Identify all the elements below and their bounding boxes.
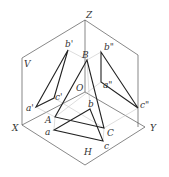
label-y: Y	[150, 123, 157, 133]
label-x: X	[11, 123, 19, 133]
projection-diagram: Z V X Y H O B A C a b c a' b' c' a" b" c…	[0, 0, 169, 177]
projection-box	[22, 20, 145, 165]
label-v: V	[24, 59, 32, 69]
label-c-dprime: c"	[140, 100, 149, 110]
v-projection-triangle	[36, 50, 68, 107]
projector-lines	[36, 50, 138, 141]
label-A: A	[44, 115, 52, 125]
label-o: O	[76, 83, 84, 93]
label-a-dprime: a"	[103, 80, 113, 90]
label-b: b	[88, 99, 94, 109]
label-h: H	[83, 147, 92, 157]
label-c-prime: c'	[55, 92, 63, 102]
label-b-dprime: b"	[104, 42, 114, 52]
label-B: B	[81, 50, 89, 60]
label-b-prime: b'	[65, 39, 73, 49]
label-a: a	[45, 127, 50, 137]
label-a-prime: a'	[26, 103, 34, 113]
label-C: C	[107, 128, 114, 138]
h-projection-triangle	[54, 109, 103, 141]
label-c: c	[104, 141, 109, 151]
label-z: Z	[85, 10, 93, 20]
